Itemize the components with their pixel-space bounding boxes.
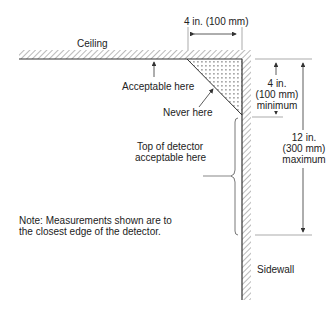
sidewall-hatch: [242, 59, 251, 300]
max-line2: (300 mm): [281, 143, 327, 154]
note-line2: the closest edge of the detector.: [19, 226, 172, 237]
min-line3: minimum: [253, 100, 301, 111]
ceiling-label: Ceiling: [77, 38, 108, 49]
minimum-dimension-label: 4 in. (100 mm) minimum: [253, 78, 301, 111]
never-here-label: Never here: [163, 107, 212, 118]
note-text: Note: Measurements shown are to the clos…: [19, 215, 172, 237]
horizontal-dimension: [188, 27, 242, 50]
max-line3: maximum: [281, 154, 327, 165]
detector-bracket: [203, 118, 238, 235]
maximum-dimension-label: 12 in. (300 mm) maximum: [281, 132, 327, 165]
min-line1: 4 in.: [253, 78, 301, 89]
max-line1: 12 in.: [281, 132, 327, 143]
never-here-arrow: [199, 89, 213, 107]
top-detector-line2: acceptable here: [135, 152, 205, 163]
top-of-detector-label: Top of detector acceptable here: [135, 141, 205, 163]
ceiling-hatch: [19, 50, 251, 59]
horizontal-dimension-label: 4 in. (100 mm): [184, 16, 248, 27]
sidewall-label: Sidewall: [257, 264, 294, 275]
top-detector-line1: Top of detector: [135, 141, 205, 152]
note-line1: Note: Measurements shown are to: [19, 215, 172, 226]
acceptable-here-label: Acceptable here: [122, 81, 194, 92]
min-line2: (100 mm): [253, 89, 301, 100]
